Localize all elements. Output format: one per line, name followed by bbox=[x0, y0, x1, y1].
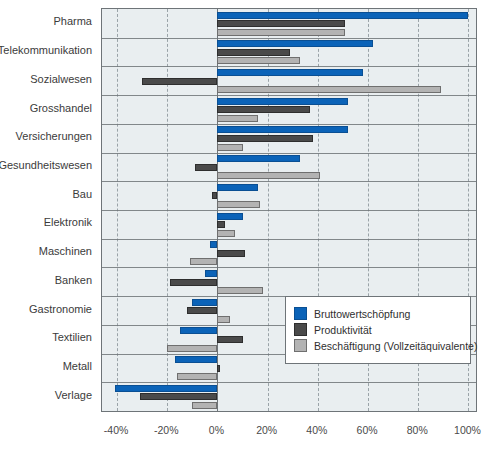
bar bbox=[180, 327, 218, 334]
category-label: Metall bbox=[63, 360, 92, 372]
row-separator bbox=[102, 210, 476, 211]
row-separator bbox=[102, 382, 476, 383]
bar bbox=[217, 57, 300, 64]
value-axis: -40%-20%0%20%40%60%80%100% bbox=[101, 418, 477, 442]
row-separator bbox=[102, 267, 476, 268]
bar bbox=[217, 250, 245, 257]
category-label: Bau bbox=[72, 188, 92, 200]
bar bbox=[217, 144, 242, 151]
row-separator bbox=[102, 124, 476, 125]
bar bbox=[217, 12, 468, 19]
bar bbox=[115, 385, 218, 392]
category-label: Sozialwesen bbox=[30, 73, 92, 85]
bar bbox=[217, 230, 235, 237]
bar bbox=[217, 172, 320, 179]
bar bbox=[217, 287, 262, 294]
x-tick-label: -40% bbox=[104, 424, 129, 436]
bar bbox=[142, 78, 217, 85]
bar bbox=[177, 373, 217, 380]
bar bbox=[210, 241, 218, 248]
bar bbox=[217, 126, 348, 133]
bar bbox=[217, 86, 440, 93]
category-label: Textilien bbox=[52, 331, 92, 343]
bar bbox=[217, 184, 257, 191]
bar bbox=[217, 69, 363, 76]
legend-item: Produktivität bbox=[294, 323, 462, 336]
row-separator bbox=[102, 38, 476, 39]
x-tick-label: 20% bbox=[256, 424, 277, 436]
bar bbox=[187, 307, 217, 314]
bar bbox=[217, 40, 373, 47]
x-tick-label: 40% bbox=[306, 424, 327, 436]
x-tick-label: 60% bbox=[357, 424, 378, 436]
bar bbox=[170, 279, 218, 286]
bar bbox=[167, 345, 217, 352]
category-label: Grosshandel bbox=[30, 102, 92, 114]
x-tick-label: 80% bbox=[407, 424, 428, 436]
legend-label: Bruttowertschöpfung bbox=[314, 308, 410, 320]
legend-label: Produktivität bbox=[314, 324, 372, 336]
row-separator bbox=[102, 181, 476, 182]
category-label: Gesundheitswesen bbox=[0, 159, 92, 171]
legend-swatch-blue-icon bbox=[294, 307, 307, 320]
x-tick-label: 0% bbox=[209, 424, 224, 436]
row-separator bbox=[102, 95, 476, 96]
bar bbox=[217, 106, 310, 113]
bar bbox=[192, 402, 217, 409]
bar bbox=[217, 20, 345, 27]
category-label: Telekommunikation bbox=[0, 44, 92, 56]
bar bbox=[217, 336, 242, 343]
bar bbox=[190, 258, 218, 265]
bar bbox=[217, 365, 220, 372]
bar bbox=[205, 270, 218, 277]
bar bbox=[195, 164, 218, 171]
category-label: Pharma bbox=[53, 15, 92, 27]
row-separator bbox=[102, 239, 476, 240]
chart-legend: Bruttowertschöpfung Produktivität Beschä… bbox=[285, 296, 471, 364]
bar bbox=[217, 213, 242, 220]
bar bbox=[217, 316, 230, 323]
bar bbox=[217, 49, 290, 56]
category-label: Maschinen bbox=[39, 245, 92, 257]
bar bbox=[217, 98, 348, 105]
bar bbox=[192, 299, 217, 306]
bar bbox=[217, 155, 300, 162]
category-label: Gastronomie bbox=[29, 303, 92, 315]
legend-swatch-darkgray-icon bbox=[294, 323, 307, 336]
category-label: Banken bbox=[55, 274, 92, 286]
bar bbox=[217, 115, 257, 122]
bar bbox=[217, 201, 260, 208]
category-label: Verlage bbox=[55, 389, 92, 401]
category-label: Versicherungen bbox=[16, 130, 92, 142]
legend-item: Beschäftigung (Vollzeitäquivalente) bbox=[294, 339, 462, 352]
category-label: Elektronik bbox=[44, 216, 92, 228]
bar bbox=[217, 221, 225, 228]
legend-label: Beschäftigung (Vollzeitäquivalente) bbox=[314, 340, 477, 352]
row-separator bbox=[102, 66, 476, 67]
x-tick-label: 100% bbox=[454, 424, 481, 436]
legend-swatch-lightgray-icon bbox=[294, 339, 307, 352]
bar bbox=[175, 356, 218, 363]
x-tick-label: -20% bbox=[154, 424, 179, 436]
bar bbox=[212, 192, 217, 199]
bar bbox=[217, 29, 345, 36]
legend-item: Bruttowertschöpfung bbox=[294, 307, 462, 320]
category-axis-labels: PharmaTelekommunikationSozialwesenGrossh… bbox=[0, 8, 96, 412]
horizontal-bar-chart: PharmaTelekommunikationSozialwesenGrossh… bbox=[0, 0, 491, 454]
bar bbox=[140, 393, 218, 400]
bar bbox=[217, 135, 312, 142]
row-separator bbox=[102, 153, 476, 154]
